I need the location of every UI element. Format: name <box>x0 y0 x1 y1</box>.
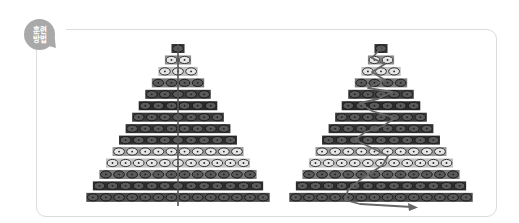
pyramid-diagrams <box>0 0 519 223</box>
pyramid-right <box>289 44 472 202</box>
arrow-head-icon <box>408 203 418 211</box>
